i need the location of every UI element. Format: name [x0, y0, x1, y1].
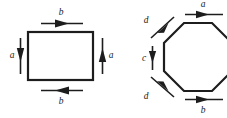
rectangle-shape [28, 32, 93, 80]
octagon-left-label: c [142, 53, 147, 63]
octagon-bottom-arrow [185, 96, 223, 103]
rectangle-left-label: a [10, 50, 15, 60]
rectangle-right-arrow [99, 38, 106, 74]
octagon-top-arrow [185, 11, 223, 18]
geometry-diagram: b a a b a d c d [0, 0, 227, 118]
octagon-lower-left-label: d [144, 91, 149, 101]
octagon-left-arrow [149, 46, 156, 70]
figure-root: b a a b a d c d [0, 0, 227, 118]
octagon-upper-left-label: d [144, 15, 149, 25]
rectangle-bottom-arrow [41, 87, 83, 95]
rectangle-right-label: a [109, 50, 114, 60]
octagon-shape [164, 23, 227, 91]
rectangle-top-arrow [41, 20, 83, 28]
rectangle-bottom-label: b [59, 96, 64, 106]
octagon-top-label: a [201, 0, 206, 9]
octagon-upper-left-arrow [151, 17, 174, 38]
rectangle-top-label: b [59, 7, 64, 17]
rectangle-left-arrow [17, 38, 24, 74]
octagon-lower-left-arrow [151, 77, 174, 97]
octagon-bottom-label: b [201, 105, 206, 115]
